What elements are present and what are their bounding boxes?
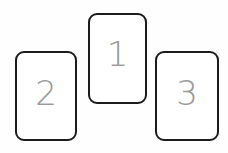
card-2-label: 2 [35, 76, 57, 110]
card-3[interactable]: 3 [155, 51, 219, 141]
card-1[interactable]: 1 [88, 13, 147, 104]
card-2[interactable]: 2 [15, 51, 77, 141]
card-1-label: 1 [107, 37, 129, 71]
card-canvas: 2 1 3 [0, 0, 228, 153]
card-3-label: 3 [176, 76, 198, 110]
